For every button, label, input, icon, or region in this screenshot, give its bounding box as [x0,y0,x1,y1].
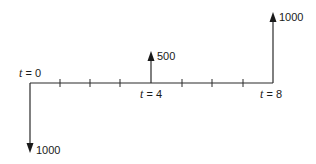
time-label-t4: t = 4 [140,87,162,101]
cash-flow-diagram: 1000 500 1000 t = 0 t = 4 t = 8 [0,0,316,164]
time-label-t8: t = 8 [260,87,282,101]
cash-flow-arrow-t8 [270,12,277,83]
amount-label-t4: 500 [157,50,175,62]
cash-flow-arrow-t0 [27,83,34,153]
cash-flow-arrow-t4 [148,51,155,83]
time-label-t0: t = 0 [19,66,41,80]
arrow-up-icon [270,12,277,22]
amount-label-t0: 1000 [36,144,60,156]
arrow-down-icon [27,143,34,153]
arrow-up-icon [148,51,155,61]
amount-label-t8: 1000 [279,11,303,23]
